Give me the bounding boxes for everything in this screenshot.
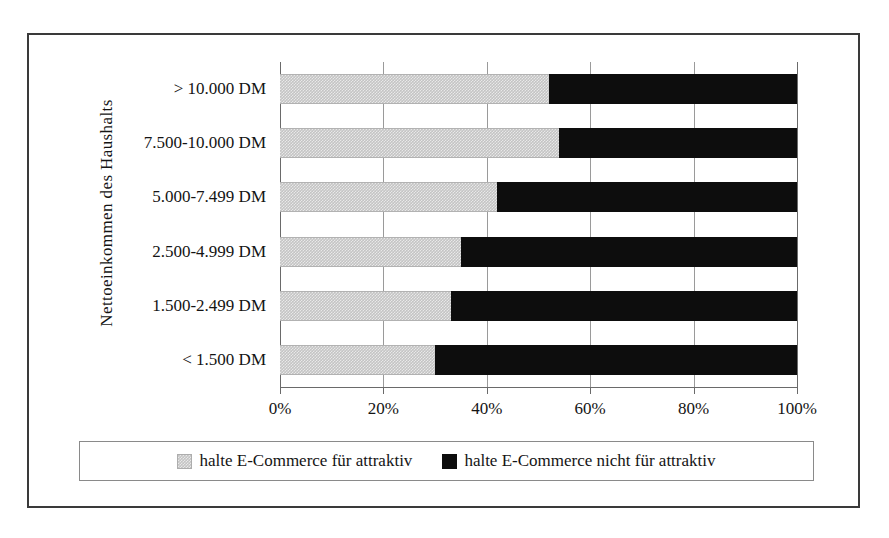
plot-area: > 10.000 DM7.500-10.000 DM5.000-7.499 DM… xyxy=(280,62,797,387)
bar-row: 2.500-4.999 DM xyxy=(280,225,797,279)
gridline-100pct xyxy=(797,62,798,387)
x-axis-tick xyxy=(280,387,281,394)
x-axis-tick xyxy=(797,387,798,394)
bar-segment-nicht-attraktiv[interactable] xyxy=(559,128,797,158)
legend-swatch-grey-icon xyxy=(177,454,192,469)
x-axis-tick xyxy=(487,387,488,394)
x-axis-tick-label: 60% xyxy=(575,399,606,419)
stacked-bar[interactable] xyxy=(280,128,797,158)
bar-segment-attraktiv[interactable] xyxy=(280,74,549,104)
bar-row: > 10.000 DM xyxy=(280,62,797,116)
bar-segment-attraktiv[interactable] xyxy=(280,345,435,375)
x-axis-tick xyxy=(694,387,695,394)
x-axis-tick-label: 80% xyxy=(678,399,709,419)
bar-row: 5.000-7.499 DM xyxy=(280,170,797,224)
bar-segment-attraktiv[interactable] xyxy=(280,182,497,212)
bar-segment-attraktiv[interactable] xyxy=(280,237,461,267)
bar-segment-nicht-attraktiv[interactable] xyxy=(435,345,797,375)
bar-segment-nicht-attraktiv[interactable] xyxy=(549,74,797,104)
stacked-bar[interactable] xyxy=(280,182,797,212)
bar-row: 1.500-2.499 DM xyxy=(280,279,797,333)
x-axis-tick-label: 40% xyxy=(471,399,502,419)
x-axis-tick-label: 0% xyxy=(269,399,292,419)
bar-row: 7.500-10.000 DM xyxy=(280,116,797,170)
stacked-bar[interactable] xyxy=(280,345,797,375)
x-axis-tick-label: 100% xyxy=(777,399,817,419)
stacked-bar[interactable] xyxy=(280,237,797,267)
legend-entry[interactable]: halte E-Commerce für attraktiv xyxy=(177,451,412,471)
figure-border: Nettoeinkommen des Haushalts > 10.000 DM… xyxy=(27,33,860,508)
legend-label: halte E-Commerce für attraktiv xyxy=(199,451,412,471)
legend-swatch-black-icon xyxy=(442,454,457,469)
bar-segment-nicht-attraktiv[interactable] xyxy=(451,291,797,321)
y-axis-category-label: < 1.500 DM xyxy=(182,350,266,370)
bar-segment-attraktiv[interactable] xyxy=(280,291,451,321)
y-axis-category-label: > 10.000 DM xyxy=(174,79,266,99)
y-axis-category-label: 2.500-4.999 DM xyxy=(152,242,266,262)
x-axis-tick-label: 20% xyxy=(368,399,399,419)
bar-segment-nicht-attraktiv[interactable] xyxy=(497,182,797,212)
x-axis-line xyxy=(280,387,798,388)
figure-root: Nettoeinkommen des Haushalts > 10.000 DM… xyxy=(0,0,889,538)
x-axis-tick xyxy=(383,387,384,394)
y-axis-title: Nettoeinkommen des Haushalts xyxy=(97,63,117,363)
bar-segment-nicht-attraktiv[interactable] xyxy=(461,237,797,267)
y-axis-category-label: 5.000-7.499 DM xyxy=(152,187,266,207)
bar-row: < 1.500 DM xyxy=(280,333,797,387)
y-axis-category-label: 7.500-10.000 DM xyxy=(144,133,266,153)
legend-entry[interactable]: halte E-Commerce nicht für attraktiv xyxy=(442,451,715,471)
y-axis-category-label: 1.500-2.499 DM xyxy=(152,296,266,316)
bar-segment-attraktiv[interactable] xyxy=(280,128,559,158)
chart-legend: halte E-Commerce für attraktivhalte E-Co… xyxy=(79,441,814,481)
stacked-bar[interactable] xyxy=(280,74,797,104)
legend-label: halte E-Commerce nicht für attraktiv xyxy=(464,451,715,471)
x-axis-tick xyxy=(590,387,591,394)
stacked-bar[interactable] xyxy=(280,291,797,321)
